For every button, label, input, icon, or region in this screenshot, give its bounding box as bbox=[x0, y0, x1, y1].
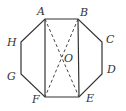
label-b: B bbox=[79, 6, 88, 19]
label-e: E bbox=[85, 92, 94, 105]
label-o: O bbox=[64, 52, 73, 65]
octagon-outline bbox=[21, 19, 102, 97]
label-h: H bbox=[6, 36, 17, 49]
label-g: G bbox=[7, 70, 16, 83]
label-c: C bbox=[106, 33, 115, 46]
label-a: A bbox=[36, 5, 45, 18]
label-f: F bbox=[31, 93, 40, 106]
segment-be bbox=[78, 19, 79, 97]
label-d: D bbox=[106, 63, 116, 76]
octagon-diagram: A B C D E F G H O bbox=[0, 0, 126, 111]
